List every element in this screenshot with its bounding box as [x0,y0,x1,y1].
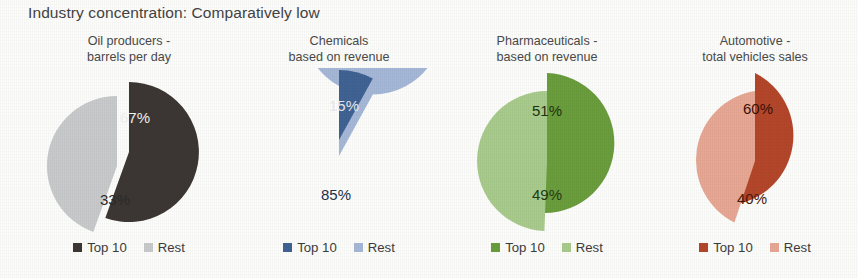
legend-entry-rest[interactable]: Rest [770,240,811,255]
pie-label-rest: 85% [321,186,351,203]
legend-label-rest: Rest [576,240,603,255]
legend-entry-top10[interactable]: Top 10 [491,240,545,255]
chart-panel-pharmaceuticals: Pharmaceuticals - based on revenue 51% 4… [440,34,654,278]
chart-title-automotive: Automotive - total vehicles sales [648,34,858,68]
pie-label-top10: 51% [532,102,562,119]
legend-swatch-top10 [283,243,292,252]
pie-chart-oil-producers: 67% 33% [22,68,236,236]
legend-swatch-top10 [699,243,708,252]
legend-entry-top10[interactable]: Top 10 [283,240,337,255]
pie-label-rest: 49% [532,186,562,203]
legend-label-top10: Top 10 [87,240,127,255]
legend-entry-rest[interactable]: Rest [354,240,395,255]
pie-chart-chemicals: 15% 85% [232,68,446,236]
pie-label-rest: 40% [737,190,767,207]
chart-title-oil-producers: Oil producers - barrels per day [22,34,236,68]
legend-swatch-rest [144,243,153,252]
page-title: Industry concentration: Comparatively lo… [28,4,320,22]
chart-title-line2: based on revenue [440,50,654,66]
chart-title-line1: Automotive - [648,34,858,50]
pie-label-top10: 15% [329,97,359,114]
pie-label-top10: 60% [743,100,773,117]
chart-title-line2: based on revenue [232,50,446,66]
pie-label-top10: 67% [120,109,150,126]
legend-swatch-top10 [491,243,500,252]
legend-chemicals: Top 10 Rest [232,237,446,257]
legend-entry-top10[interactable]: Top 10 [73,240,127,255]
legend-entry-rest[interactable]: Rest [562,240,603,255]
chart-panel-oil-producers: Oil producers - barrels per day 67% 33% … [22,34,236,278]
chart-title-line2: total vehicles sales [648,50,858,66]
chart-title-chemicals: Chemicals based on revenue [232,34,446,68]
chart-title-line1: Oil producers - [22,34,236,50]
legend-label-top10: Top 10 [505,240,545,255]
pie-chart-automotive: 60% 40% [648,68,858,236]
legend-entry-rest[interactable]: Rest [144,240,185,255]
chart-panel-automotive: Automotive - total vehicles sales 60% 40… [648,34,858,278]
legend-label-top10: Top 10 [297,240,337,255]
legend-label-rest: Rest [784,240,811,255]
legend-label-top10: Top 10 [713,240,753,255]
chart-title-pharmaceuticals: Pharmaceuticals - based on revenue [440,34,654,68]
pie-label-rest: 33% [100,191,130,208]
legend-automotive: Top 10 Rest [648,237,858,257]
legend-label-rest: Rest [368,240,395,255]
legend-pharmaceuticals: Top 10 Rest [440,237,654,257]
chart-panel-chemicals: Chemicals based on revenue 15% 85% Top 1… [232,34,446,278]
chart-title-line2: barrels per day [22,50,236,66]
legend-entry-top10[interactable]: Top 10 [699,240,753,255]
legend-swatch-rest [562,243,571,252]
chart-title-line1: Chemicals [232,34,446,50]
pie-chart-pharmaceuticals: 51% 49% [440,68,654,236]
legend-swatch-rest [354,243,363,252]
chart-title-line1: Pharmaceuticals - [440,34,654,50]
legend-label-rest: Rest [158,240,185,255]
legend-oil-producers: Top 10 Rest [22,237,236,257]
legend-swatch-top10 [73,243,82,252]
legend-swatch-rest [770,243,779,252]
